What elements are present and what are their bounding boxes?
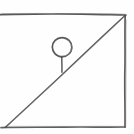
sketch-drawing — [0, 0, 134, 134]
top-horizontal-line — [0, 13, 126, 15]
right-vertical-line — [125, 16, 127, 128]
diagonal-hypotenuse-line — [6, 16, 125, 127]
sketch-canvas: Hand-drawn inclined plane with ball penc… — [0, 0, 134, 134]
ball-circle — [52, 38, 72, 57]
bottom-horizontal-line — [1, 126, 125, 127]
